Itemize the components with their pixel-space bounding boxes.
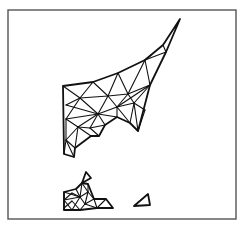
mesh-edge (108, 94, 128, 96)
isolated-triangle (134, 194, 150, 206)
mesh-edge (80, 96, 108, 98)
mesh-edge (145, 60, 150, 85)
mesh-figure (0, 0, 243, 226)
main-region-boundary (63, 19, 180, 157)
mesh-edge (108, 96, 117, 107)
mesh-canvas (0, 0, 243, 226)
mesh-edge (93, 82, 108, 96)
mesh-edge (128, 60, 145, 94)
mesh-edge (80, 82, 93, 98)
mesh-edge (90, 128, 99, 136)
mesh-edge (66, 119, 78, 127)
lower-left-region-boundary (64, 183, 113, 210)
mesh-edge (118, 73, 128, 94)
mesh-edge (98, 114, 117, 117)
mesh-edge (97, 199, 106, 208)
main-region (63, 19, 180, 157)
mesh-edge (130, 103, 134, 123)
small-island-triangle-boundary (82, 172, 91, 183)
mesh-edge (80, 197, 85, 204)
lower-left-region (64, 183, 113, 210)
figure-frame (8, 10, 236, 219)
isolated-triangle-boundary (134, 194, 150, 206)
mesh-edge (63, 86, 80, 98)
small-island-triangle (82, 172, 91, 183)
mesh-edge (98, 114, 105, 125)
mesh-regions (63, 19, 180, 210)
